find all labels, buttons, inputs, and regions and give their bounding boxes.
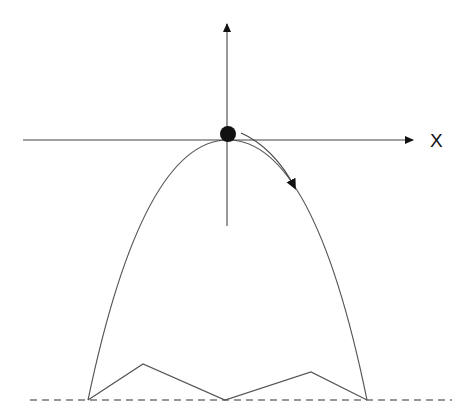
- motion-arrow: [241, 133, 295, 188]
- x-axis-label: X: [430, 131, 443, 150]
- ball: [220, 126, 236, 142]
- zigzag-base-line: [88, 364, 367, 400]
- diagram-canvas: [0, 0, 476, 419]
